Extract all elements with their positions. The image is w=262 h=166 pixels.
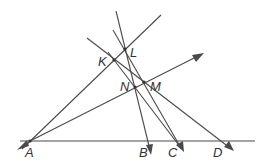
label-a: A xyxy=(24,145,34,160)
label-n: N xyxy=(120,79,130,94)
point-k xyxy=(112,58,115,61)
line-AKL xyxy=(22,15,161,149)
label-m: M xyxy=(150,79,161,94)
point-n xyxy=(133,85,136,88)
label-c: C xyxy=(168,145,178,160)
label-k: K xyxy=(98,54,108,69)
label-l: L xyxy=(130,45,137,60)
ray-ANM xyxy=(30,55,200,141)
arrow-head-d xyxy=(224,141,234,151)
point-a xyxy=(28,139,31,142)
point-l xyxy=(123,47,126,50)
label-b: B xyxy=(139,145,148,160)
geometry-diagram: A B C D K L M N xyxy=(0,0,262,166)
label-d: D xyxy=(213,145,222,160)
point-m xyxy=(142,80,145,83)
line-KNC xyxy=(108,52,181,148)
arrow-head-m xyxy=(192,53,204,62)
